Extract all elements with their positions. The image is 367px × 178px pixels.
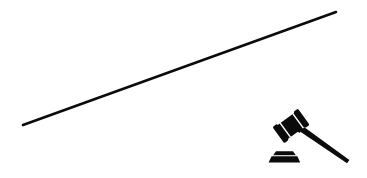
illustration-canvas	[0, 0, 367, 178]
scene-svg	[0, 0, 367, 178]
canvas-background	[0, 0, 367, 178]
